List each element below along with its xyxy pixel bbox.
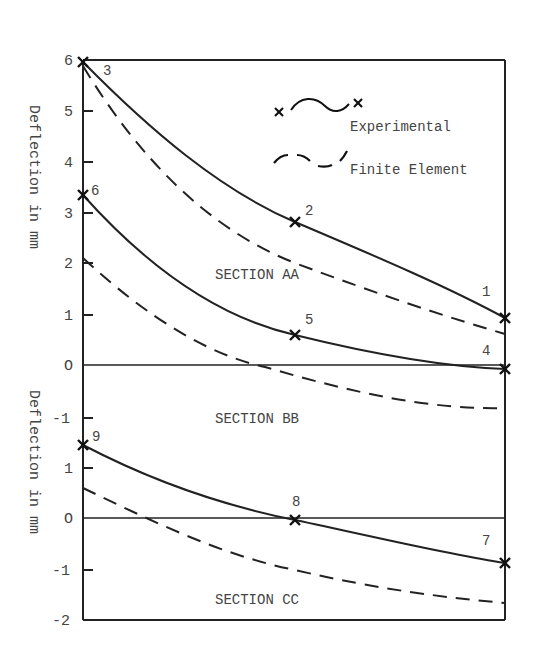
y-axis-label-lower: Deflection in mm [25, 390, 42, 534]
legend-experimental-label: Experimental [350, 119, 451, 135]
point-label-3: 3 [103, 63, 111, 79]
point-label-1: 1 [482, 284, 490, 300]
tick-label: 3 [64, 206, 73, 223]
point-label-7: 7 [482, 533, 490, 549]
tick-label: 2 [64, 256, 73, 273]
deflection-chart: 6 5 4 3 2 1 O -1 1 O -1 -2 Deflection in… [0, 0, 535, 662]
tick-label: 1 [64, 308, 73, 325]
section-label-aa: SECTION AA [215, 267, 300, 283]
plot-frame [83, 60, 505, 620]
tick-label: -2 [52, 613, 70, 630]
tick-label: 4 [64, 155, 73, 172]
y-tick-labels: 6 5 4 3 2 1 O -1 1 O -1 -2 [52, 53, 73, 630]
legend-experimental-swatch [275, 99, 362, 116]
y-ticks [83, 111, 93, 570]
y-axis-label-upper: Deflection in mm [25, 105, 42, 249]
point-label-2: 2 [305, 203, 313, 219]
section-label-cc: SECTION CC [215, 592, 299, 608]
tick-label: 5 [64, 104, 73, 121]
tick-label: -1 [52, 563, 70, 580]
tick-label: 1 [64, 461, 73, 478]
legend: Experimental Finite Element [274, 99, 468, 178]
section-label-bb: SECTION BB [215, 411, 299, 427]
marker-point-2 [290, 217, 300, 227]
point-label-8: 8 [292, 494, 300, 510]
tick-label: 6 [64, 53, 73, 70]
point-label-4: 4 [482, 343, 490, 359]
point-label-5: 5 [305, 312, 313, 328]
point-label-6: 6 [91, 183, 99, 199]
tick-label: O [64, 358, 73, 375]
tick-label: -1 [52, 411, 70, 428]
legend-finite-element-swatch [274, 151, 347, 167]
legend-finite-element-label: Finite Element [350, 162, 468, 178]
tick-label: O [64, 511, 73, 528]
point-label-9: 9 [92, 429, 100, 445]
